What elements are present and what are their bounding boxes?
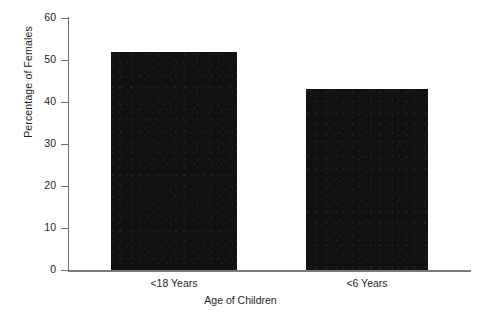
bar-1 [111,52,237,270]
x-axis-tick-label: <6 Years [287,277,447,289]
plot-area [0,0,481,319]
bar-chart-figure: Percentage of Females 0102030405060 <18 … [0,0,481,319]
x-axis-tick-label: <18 Years [94,277,254,289]
bar-2 [306,89,428,270]
x-axis-title: Age of Children [0,294,481,306]
